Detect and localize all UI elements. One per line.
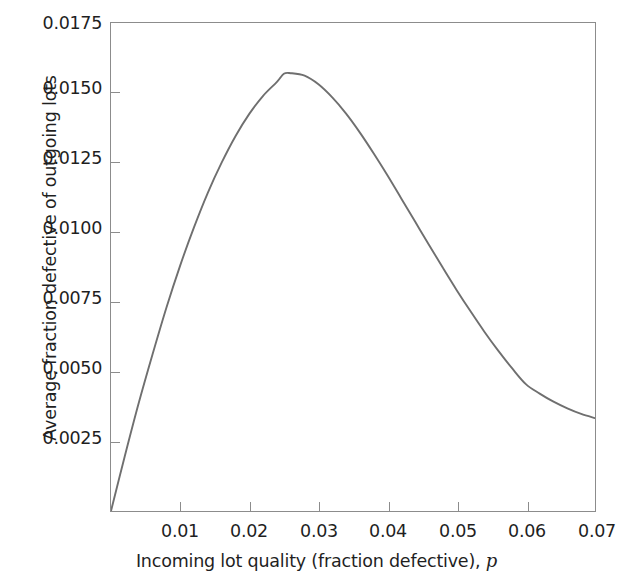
xtick-label-007: 0.07 [562, 521, 632, 541]
xtick-label-006: 0.06 [492, 521, 562, 541]
plot-area [110, 22, 596, 512]
xtick-label-001: 0.01 [145, 521, 215, 541]
aoq-curve-svg [111, 23, 595, 511]
xtick-label-003: 0.03 [284, 521, 354, 541]
xtick-label-002: 0.02 [214, 521, 284, 541]
x-axis-title-text: Incoming lot quality (fraction defective… [136, 551, 486, 571]
xtick-label-004: 0.04 [353, 521, 423, 541]
y-axis-title: Average fraction defective of outgoing l… [40, 13, 60, 503]
aoq-curve-path [111, 73, 595, 511]
cut-off-caption [0, 576, 633, 585]
xtick-label-005: 0.05 [423, 521, 493, 541]
figure-aoq-curve: 0.0175 0.0150 0.0125 0.0100 0.0075 0.005… [0, 0, 633, 585]
x-axis-title: Incoming lot quality (fraction defective… [0, 550, 633, 571]
x-axis-title-italic-p: p [486, 550, 497, 571]
